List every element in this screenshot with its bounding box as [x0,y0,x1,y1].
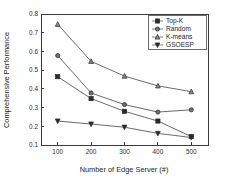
y-tick-label: 0.3 [29,104,38,111]
y-tick-label: 0.4 [29,85,38,92]
y-tick-label: 0.5 [29,66,38,73]
data-point-marker [156,110,160,114]
data-point-marker [89,96,93,100]
y-tick-label: 0.8 [29,10,38,17]
data-point-marker [55,22,60,27]
x-tick-label: 200 [86,148,97,155]
chart-figure: 0.10.20.30.40.50.60.70.8 100200300400500… [0,0,231,179]
data-point-marker [155,19,159,23]
y-tick-label: 0.7 [29,29,38,36]
x-tick-label: 300 [119,148,130,155]
x-axis-title: Number of Edge Server (#) [80,165,169,174]
series-random [56,53,194,114]
series-gsoesp [55,119,193,140]
x-tick-label: 100 [52,148,63,155]
data-point-marker [56,75,60,79]
y-tick-label: 0.6 [29,48,38,55]
data-point-marker [189,108,193,112]
legend-label-k-means: K-means [166,33,193,40]
y-axis-ticks: 0.10.20.30.40.50.60.70.8 [29,10,44,148]
data-point-marker [122,102,126,106]
y-tick-label: 0.1 [29,141,38,148]
data-point-marker [56,53,60,57]
chart-legend: Top-KRandomK-meansGSOESP [149,16,207,50]
y-axis-title: Comprehensive Performance [2,32,11,128]
data-point-marker [156,119,160,123]
data-point-marker [89,91,93,95]
legend-label-top-k: Top-K [166,17,184,25]
data-point-marker [122,74,127,79]
legend-label-gsoesp: GSOESP [166,41,194,48]
data-point-marker [155,27,159,31]
x-tick-label: 500 [186,148,197,155]
x-axis-ticks: 100200300400500 [52,142,197,155]
legend-label-random: Random [166,25,191,32]
x-tick-label: 400 [153,148,164,155]
data-point-marker [122,109,126,113]
y-tick-label: 0.2 [29,123,38,130]
line-chart-canvas: 0.10.20.30.40.50.60.70.8 100200300400500… [0,0,231,179]
